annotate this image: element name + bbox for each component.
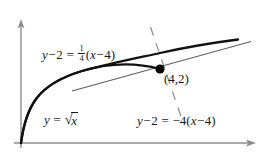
- x-axis: [14, 139, 256, 146]
- tangent-eq-equals: =: [66, 47, 74, 62]
- curve-eq-equals: =: [53, 112, 61, 127]
- math-figure: y−2 = 14(x−4) y = √x y−2 = −4(x−4) (4,2): [0, 0, 269, 159]
- normal-eq-y: y: [137, 113, 143, 128]
- tangent-eq-minus: −: [48, 47, 56, 62]
- normal-eq-equals: =: [161, 113, 169, 128]
- tangent-equation-label: y−2 = 14(x−4): [42, 44, 115, 64]
- normal-eq-neg-four: −4: [172, 113, 186, 128]
- curve-equation-label: y = √x: [44, 113, 78, 127]
- square-root-icon: √x: [65, 113, 78, 127]
- normal-eq-two: 2: [151, 113, 158, 128]
- point-close-paren: ): [185, 71, 189, 86]
- fraction-denominator: 4: [78, 54, 84, 63]
- tangent-eq-x: x: [90, 47, 96, 62]
- tangent-eq-two: 2: [56, 47, 63, 62]
- normal-eq-minus2: −: [196, 113, 204, 128]
- point-coordinate-label: (4,2): [164, 72, 189, 85]
- normal-equation-label: y−2 = −4(x−4): [137, 114, 216, 127]
- normal-eq-minus: −: [143, 113, 151, 128]
- tangent-eq-fraction-one-fourth: 14: [78, 44, 84, 64]
- tangent-eq-y: y: [42, 47, 48, 62]
- tangent-eq-minus2: −: [96, 47, 104, 62]
- tangent-eq-close-paren: ): [111, 47, 115, 62]
- curve-eq-y: y: [44, 112, 50, 127]
- normal-eq-close-paren: ): [211, 113, 215, 128]
- figure-canvas: [0, 0, 269, 159]
- radicand-x: x: [71, 112, 78, 128]
- fraction-numerator: 1: [78, 44, 84, 53]
